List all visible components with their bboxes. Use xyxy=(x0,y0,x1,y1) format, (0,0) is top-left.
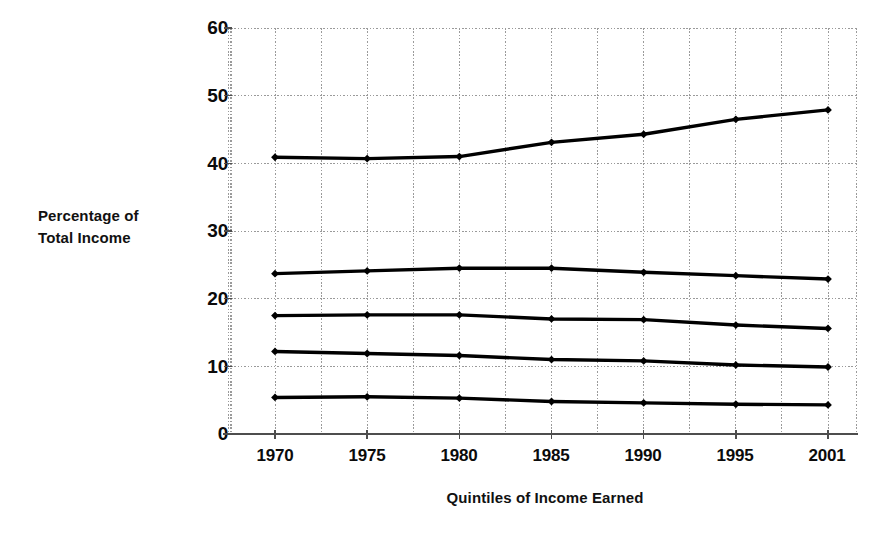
data-point-marker xyxy=(363,311,371,319)
series-4 xyxy=(271,348,832,371)
data-point-marker xyxy=(455,264,463,272)
data-point-marker xyxy=(548,264,556,272)
axis-lines xyxy=(223,28,858,439)
data-point-marker xyxy=(548,138,556,146)
data-point-marker xyxy=(732,115,740,123)
data-point-marker xyxy=(732,272,740,280)
data-point-marker xyxy=(640,316,648,324)
data-point-marker xyxy=(363,350,371,358)
data-point-marker xyxy=(363,267,371,275)
data-point-marker xyxy=(640,130,648,138)
data-point-marker xyxy=(548,315,556,323)
data-point-marker xyxy=(732,321,740,329)
data-point-marker xyxy=(455,352,463,360)
data-point-marker xyxy=(732,361,740,369)
data-point-marker xyxy=(271,348,279,356)
data-point-marker xyxy=(548,398,556,406)
data-point-marker xyxy=(455,394,463,402)
data-point-marker xyxy=(640,268,648,276)
data-point-marker xyxy=(548,356,556,364)
data-point-marker xyxy=(824,401,832,409)
data-point-marker xyxy=(824,363,832,371)
data-point-marker xyxy=(455,153,463,161)
data-point-marker xyxy=(824,325,832,333)
grid-lines xyxy=(229,28,856,434)
chart-figure: Percentage of Total Income Quintiles of … xyxy=(0,0,893,540)
data-point-marker xyxy=(640,357,648,365)
data-point-marker xyxy=(271,312,279,320)
data-point-marker xyxy=(640,399,648,407)
data-point-marker xyxy=(824,275,832,283)
data-point-marker xyxy=(271,394,279,402)
plot-area xyxy=(0,0,893,540)
data-point-marker xyxy=(271,153,279,161)
data-point-marker xyxy=(824,106,832,114)
data-point-marker xyxy=(271,270,279,278)
data-point-marker xyxy=(363,155,371,163)
data-point-marker xyxy=(363,393,371,401)
data-point-marker xyxy=(732,400,740,408)
data-point-marker xyxy=(455,311,463,319)
